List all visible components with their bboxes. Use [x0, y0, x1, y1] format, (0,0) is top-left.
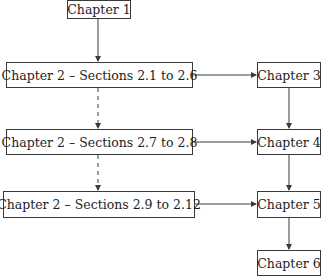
node-label: Chapter 4: [257, 135, 320, 150]
node-label: Chapter 1: [67, 2, 130, 17]
node-label: Chapter 2 – Sections 2.7 to 2.8: [2, 135, 198, 150]
node-chapter-4: Chapter 4: [257, 129, 321, 155]
node-chapter-2-sections-2-1-to-2-6: Chapter 2 – Sections 2.1 to 2.6: [6, 62, 193, 88]
node-label: Chapter 2 – Sections 2.9 to 2.12: [0, 197, 201, 212]
node-chapter-2-sections-2-9-to-2-12: Chapter 2 – Sections 2.9 to 2.12: [3, 191, 195, 218]
node-chapter-2-sections-2-7-to-2-8: Chapter 2 – Sections 2.7 to 2.8: [6, 129, 193, 155]
node-chapter-5: Chapter 5: [257, 191, 321, 218]
node-label: Chapter 5: [257, 197, 320, 212]
node-chapter-1: Chapter 1: [67, 0, 131, 19]
node-label: Chapter 6: [257, 256, 320, 271]
node-chapter-3: Chapter 3: [257, 62, 321, 88]
node-label: Chapter 2 – Sections 2.1 to 2.6: [2, 68, 198, 83]
node-chapter-6: Chapter 6: [257, 250, 321, 276]
node-label: Chapter 3: [257, 68, 320, 83]
